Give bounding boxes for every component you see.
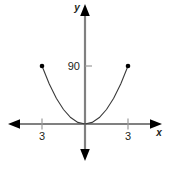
x-axis-label: x — [155, 127, 162, 138]
y-axis-tick-label-90: 90 — [68, 60, 80, 72]
curve-endpoint-left — [40, 64, 45, 69]
coordinate-plane-graph: 3 3 90 y x — [0, 0, 169, 169]
x-axis-tick-label-left: 3 — [39, 130, 45, 142]
curve-endpoint-right — [126, 64, 131, 69]
y-axis-label: y — [73, 2, 80, 13]
x-axis-tick-label-right: 3 — [125, 130, 131, 142]
graph-figure: 3 3 90 y x — [0, 0, 169, 169]
